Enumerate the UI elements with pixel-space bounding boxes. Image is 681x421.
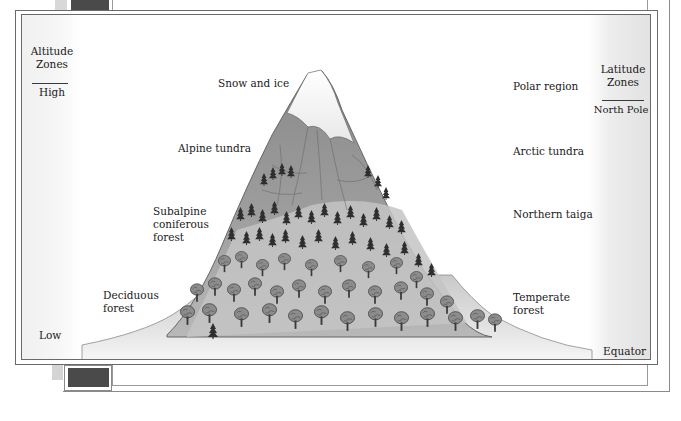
altitude-title-line1: Altitude <box>24 45 80 58</box>
figure-frame-inner: Altitude Zones High Low Snow and ice Alp… <box>21 14 651 360</box>
subalpine-line1: Subalpine <box>153 205 209 218</box>
deciduous-line1: Deciduous <box>103 289 159 302</box>
subalpine-line2: coniferous <box>153 218 209 231</box>
latitude-equator-label: Equator <box>603 345 646 358</box>
label-subalpine-coniferous-forest: Subalpine coniferous forest <box>153 205 209 244</box>
altitude-high-label: High <box>24 86 80 99</box>
temperate-line1: Temperate <box>513 291 570 304</box>
altitude-zones-heading: Altitude Zones <box>24 45 80 71</box>
latitude-title-line2: Zones <box>592 76 651 89</box>
label-snow-and-ice: Snow and ice <box>218 77 289 90</box>
temperate-line2: forest <box>513 304 570 317</box>
page-edge-light <box>55 0 67 10</box>
page-tab-bottom <box>68 368 109 387</box>
altitude-title-line2: Zones <box>24 58 80 71</box>
label-arctic-tundra: Arctic tundra <box>513 145 584 158</box>
altitude-divider <box>32 83 68 84</box>
latitude-north-pole-label: North Pole <box>588 103 651 116</box>
label-northern-taiga: Northern taiga <box>513 208 593 221</box>
latitude-divider <box>602 100 644 101</box>
page-tab-top <box>71 0 109 10</box>
label-alpine-tundra: Alpine tundra <box>178 142 251 155</box>
label-temperate-forest: Temperate forest <box>513 291 570 317</box>
deciduous-line2: forest <box>103 302 159 315</box>
latitude-title-line1: Latitude <box>592 63 651 76</box>
subalpine-line3: forest <box>153 231 209 244</box>
label-deciduous-forest: Deciduous forest <box>103 289 159 315</box>
altitude-low-label: Low <box>39 329 61 342</box>
latitude-zones-heading: Latitude Zones <box>592 63 651 89</box>
label-polar-region: Polar region <box>513 80 578 93</box>
